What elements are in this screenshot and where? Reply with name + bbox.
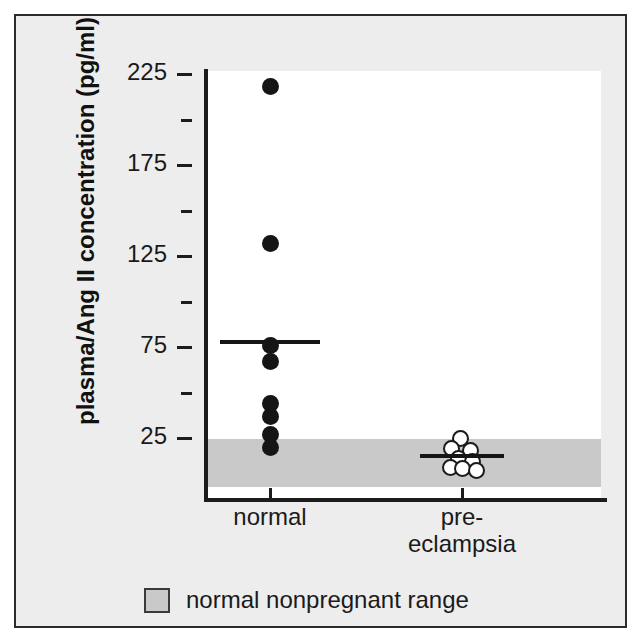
y-tick-minor [181, 392, 192, 395]
x-tick [269, 488, 272, 502]
legend: normal nonpregnant range [144, 586, 469, 614]
legend-swatch-range [144, 588, 170, 613]
mean-line-normal [220, 340, 320, 344]
y-tick-label: 25 [67, 422, 167, 450]
figure-frame: 2575125175225 plasma/Ang II concentratio… [14, 14, 627, 628]
legend-label-range: normal nonpregnant range [186, 586, 469, 614]
x-tick [461, 488, 464, 502]
data-point-normal [262, 235, 279, 252]
data-point-normal [262, 408, 279, 425]
y-tick-major [177, 255, 192, 258]
x-tick-label-normal: normal [160, 504, 380, 531]
data-point-normal [262, 78, 279, 95]
y-tick-major [177, 437, 192, 440]
y-tick-minor [181, 119, 192, 122]
x-axis-line [204, 498, 607, 502]
y-axis-title: plasma/Ang II concentration (pg/ml) [72, 65, 100, 425]
data-point-pre-eclampsia [468, 462, 485, 479]
data-point-normal [262, 439, 279, 456]
y-axis-line [204, 69, 208, 502]
x-tick-label-pre-eclampsia: pre-eclampsia [352, 504, 572, 558]
y-tick-major [177, 73, 192, 76]
y-tick-minor [181, 210, 192, 213]
y-tick-major [177, 346, 192, 349]
y-tick-minor [181, 301, 192, 304]
figure-root: 2575125175225 plasma/Ang II concentratio… [0, 0, 641, 643]
y-tick-major [177, 164, 192, 167]
data-point-normal [262, 353, 279, 370]
mean-line-pre-eclampsia [420, 454, 504, 458]
